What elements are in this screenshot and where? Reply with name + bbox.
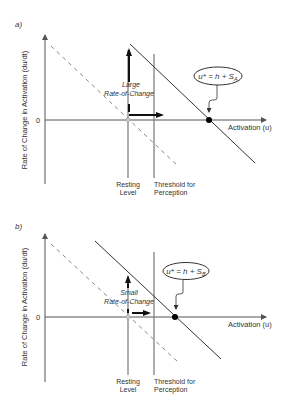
fixed-point-equation: u* = h + SB: [166, 267, 206, 277]
zero-tick-label: 0: [36, 313, 40, 322]
callout-pointer: [209, 85, 217, 112]
baseline-dashed-line: [51, 46, 178, 166]
resting-label-line2: Level: [120, 386, 137, 393]
rate-label-line1: Small: [120, 289, 138, 296]
y-axis-label: Rate of Change in Activation (du/dt): [20, 247, 29, 366]
fixed-point: [206, 117, 212, 123]
rate-label-line1: Large: [122, 81, 140, 89]
x-axis-label: Activation (u): [228, 123, 272, 132]
resting-point: [126, 118, 130, 122]
threshold-label-line1: Threshold for: [154, 378, 196, 385]
panel-a: a) Rate of Change in Activation (du/dt) …: [15, 20, 272, 197]
x-axis-label: Activation (u): [228, 320, 272, 329]
resting-label-line1: Resting: [116, 378, 140, 386]
panel-label: b): [15, 222, 22, 231]
threshold-label-line2: Perception: [154, 386, 188, 394]
resting-label-line2: Level: [120, 189, 137, 196]
y-axis-label: Rate of Change in Activation (du/dt): [20, 50, 29, 169]
fixed-point: [172, 314, 178, 320]
resting-label-line1: Resting: [116, 181, 140, 189]
rate-label-line2: Rate-of-Change: [104, 90, 154, 98]
panel-label: a): [15, 20, 22, 29]
panel-b: b) Rate of Change in Activation (du/dt) …: [15, 222, 272, 394]
rate-label-line2: Rate-of-Change: [104, 298, 154, 306]
callout-pointer: [176, 280, 183, 309]
threshold-label-line2: Perception: [154, 189, 188, 197]
threshold-label-line1: Threshold for: [154, 181, 196, 188]
input-shifted-line: [130, 44, 255, 163]
fixed-point-equation: u* = h + SA: [198, 72, 238, 82]
diagram: a) Rate of Change in Activation (du/dt) …: [0, 0, 287, 405]
resting-point: [126, 315, 130, 319]
zero-tick-label: 0: [36, 116, 40, 125]
